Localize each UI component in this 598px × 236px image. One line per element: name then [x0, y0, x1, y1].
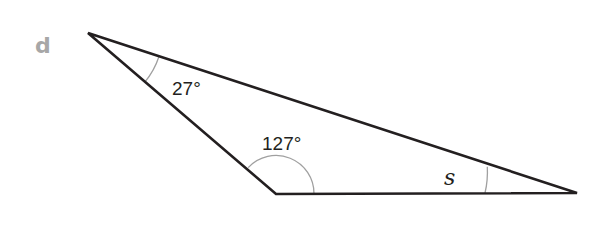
angle-arc-top-left — [145, 57, 159, 82]
angle-label-right: s — [444, 165, 455, 190]
angle-arc-right — [485, 167, 487, 193]
angle-label-top-left: 27° — [172, 78, 201, 99]
triangle-diagram: 27° 127° s — [0, 0, 598, 236]
triangle — [88, 33, 577, 194]
angle-label-bottom-left: 127° — [262, 133, 301, 154]
angle-arc-bottom-left — [248, 156, 314, 194]
